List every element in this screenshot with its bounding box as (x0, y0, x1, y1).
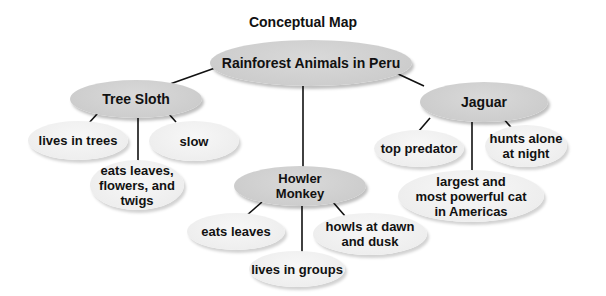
diagram-title: Conceptual Map (0, 14, 606, 30)
fact-node: howls at dawn and dusk (313, 213, 427, 255)
fact-node: lives in trees (28, 121, 128, 160)
fact-label: eats leaves (201, 224, 270, 239)
connector-root-jaguar (396, 73, 424, 86)
fact-node: largest and most powerful cat in America… (398, 170, 544, 222)
fact-label: lives in trees (39, 133, 118, 148)
connector-root-sloth (170, 68, 215, 84)
fact-node: lives in groups (249, 251, 345, 287)
animal-label: Jaguar (461, 95, 507, 110)
fact-label: top predator (381, 141, 458, 156)
animal-label: Tree Sloth (102, 92, 170, 107)
fact-label: lives in groups (251, 262, 343, 277)
fact-label: eats leaves, flowers, and twigs (99, 163, 175, 208)
fact-node: eats leaves (187, 213, 285, 250)
animal-label: Howler Monkey (276, 171, 324, 201)
animal-node-howler-monkey: Howler Monkey (234, 166, 366, 206)
animal-node-tree-sloth: Tree Sloth (70, 80, 202, 118)
fact-node: eats leaves, flowers, and twigs (90, 160, 184, 210)
root-label: Rainforest Animals in Peru (222, 56, 400, 71)
fact-label: largest and most powerful cat in America… (415, 174, 526, 219)
root-node: Rainforest Animals in Peru (210, 40, 412, 86)
fact-node: hunts alone at night (485, 125, 567, 167)
fact-label: hunts alone at night (490, 131, 563, 161)
fact-label: slow (180, 134, 209, 149)
fact-node: top predator (374, 130, 464, 167)
fact-node: slow (149, 121, 239, 161)
fact-label: howls at dawn and dusk (326, 219, 415, 249)
animal-node-jaguar: Jaguar (420, 82, 548, 122)
